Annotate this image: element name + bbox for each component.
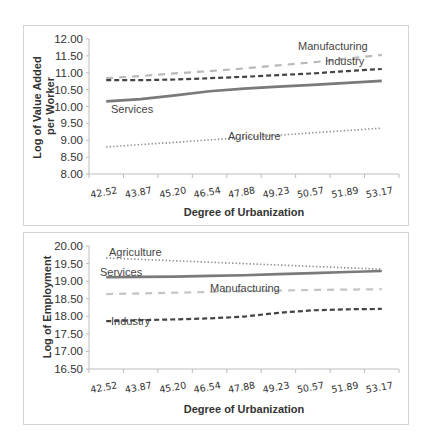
x-tick-label: 53.17 — [365, 184, 394, 200]
x-tick-label: 42.52 — [89, 379, 118, 395]
x-tick-label: 50.57 — [296, 184, 325, 200]
x-tick-label: 47.88 — [227, 184, 256, 200]
y-tick-label: 19.00 — [54, 275, 83, 287]
series-line-agriculture — [106, 258, 382, 269]
label-manufacturing: Manufacturing — [298, 40, 368, 52]
y-tick-label: 10.00 — [54, 101, 83, 113]
y-tick-label: 20.00 — [54, 240, 83, 252]
y-tick-label: 8.50 — [61, 151, 83, 163]
x-axis-title: Degree of Urbanization — [184, 206, 305, 218]
x-tick-label: 49.23 — [262, 379, 291, 395]
y-axis-title: Log of Employment — [41, 255, 53, 358]
y-tick-label: 19.50 — [54, 258, 83, 270]
y-tick-label: 10.50 — [54, 84, 83, 96]
x-tick-label: 46.54 — [193, 379, 222, 395]
label-agriculture: Agriculture — [109, 246, 162, 258]
x-tick-label: 51.89 — [331, 379, 360, 395]
x-tick-label: 50.57 — [296, 379, 325, 395]
x-tick-label: 53.17 — [365, 379, 394, 395]
x-tick-label: 43.87 — [124, 379, 153, 395]
value-added-chart: 8.008.509.009.5010.0010.5011.0011.5012.0… — [31, 33, 399, 218]
y-tick-label: 18.00 — [54, 310, 83, 322]
y-tick-label: 8.00 — [61, 168, 83, 180]
x-tick-label: 45.20 — [158, 184, 187, 200]
y-tick-labels: 8.008.509.009.5010.0010.5011.0011.5012.0… — [54, 33, 89, 180]
label-agriculture: Agriculture — [228, 130, 281, 142]
x-tick-label: 47.88 — [227, 379, 256, 395]
charts-canvas: 8.008.509.009.5010.0010.5011.0011.5012.0… — [0, 0, 431, 438]
x-tick-label: 42.52 — [89, 184, 118, 200]
x-tick-label: 43.87 — [124, 184, 153, 200]
label-services: Services — [111, 103, 154, 115]
y-tick-label: 12.00 — [54, 33, 83, 45]
y-tick-label: 9.50 — [61, 117, 83, 129]
series-line-services — [106, 271, 382, 277]
y-tick-label: 17.00 — [54, 345, 83, 357]
x-tick-label: 45.20 — [158, 379, 187, 395]
x-tick-labels: 42.5243.8745.2046.5447.8849.2350.5751.89… — [89, 369, 399, 395]
y-tick-label: 17.50 — [54, 328, 83, 340]
y-tick-label: 18.50 — [54, 293, 83, 305]
y-tick-label: 16.50 — [54, 363, 83, 375]
employment-chart: 16.5017.0017.5018.0018.5019.0019.5020.00… — [41, 240, 399, 415]
y-tick-label: 11.00 — [55, 67, 83, 79]
series-line-services — [106, 81, 382, 102]
y-axis-title: Log of Value Added per Worker — [31, 53, 56, 158]
label-industry: Industry — [111, 315, 151, 327]
x-axis-title: Degree of Urbanization — [184, 403, 305, 415]
y-tick-label: 9.00 — [61, 134, 83, 146]
x-tick-label: 51.89 — [331, 184, 360, 200]
y-tick-label: 11.50 — [55, 50, 83, 62]
y-tick-labels: 16.5017.0017.5018.0018.5019.0019.5020.00 — [54, 240, 89, 375]
label-industry: Industry — [325, 55, 365, 67]
x-tick-label: 49.23 — [262, 184, 291, 200]
label-services: Services — [100, 266, 143, 278]
x-tick-labels: 42.5243.8745.2046.5447.8849.2350.5751.89… — [89, 174, 399, 200]
x-tick-label: 46.54 — [193, 184, 222, 200]
label-manufacturing: Manufacturing — [210, 282, 280, 294]
